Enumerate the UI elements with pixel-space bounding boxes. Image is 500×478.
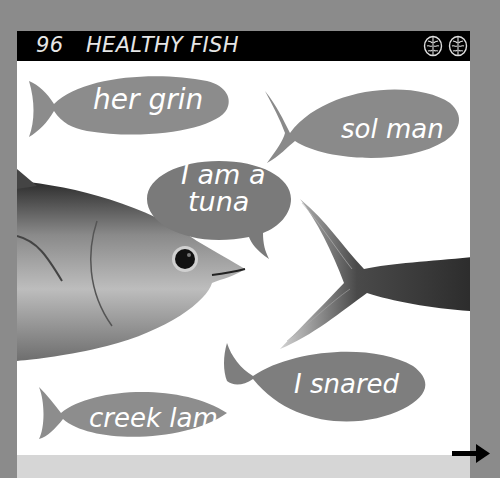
fish-label-creek-lam: creek lam — [89, 403, 218, 433]
brain-icon — [448, 35, 468, 57]
book-page: 96 HEALTHY FISH — [17, 31, 470, 478]
brain-icon — [423, 35, 443, 57]
page-number: 96 — [36, 33, 64, 57]
speech-bubble-line2: tuna — [188, 189, 249, 215]
fish-label-i-snared: I snared — [294, 369, 399, 399]
arrow-right-icon[interactable] — [452, 444, 492, 464]
fish-label-sol-man: sol man — [341, 114, 444, 144]
page-header: 96 HEALTHY FISH — [17, 31, 470, 61]
page-title: HEALTHY FISH — [86, 33, 239, 57]
tuna-tail-photo — [272, 191, 470, 361]
fish-label-her-grin: her grin — [93, 83, 203, 116]
speech-bubble-line1: I am a — [181, 162, 266, 188]
bottom-strip — [17, 455, 470, 478]
